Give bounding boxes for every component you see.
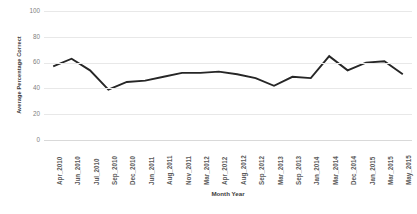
x-tick-label: Jun_2010 xyxy=(74,139,81,185)
x-tick-label: Jan_2015 xyxy=(369,139,376,185)
y-tick-label: 20 xyxy=(14,111,40,117)
x-tick-label: Apr_2012 xyxy=(221,139,228,185)
gridline xyxy=(44,37,412,38)
x-tick-label: Jan_2014 xyxy=(313,139,320,185)
x-tick-label: Nov_2011 xyxy=(185,139,192,185)
gridline xyxy=(44,63,412,64)
gridline xyxy=(44,11,412,12)
line-chart-figure: Average Percentage Correct 020406080100 … xyxy=(0,0,417,214)
y-tick-label: 100 xyxy=(14,8,40,14)
x-tick-label: Dec_2014 xyxy=(350,139,357,185)
x-axis-title: Month Year xyxy=(44,190,412,197)
y-tick-label: 60 xyxy=(14,59,40,65)
x-tick-label: Dec_2010 xyxy=(129,139,136,185)
x-axis-tick-labels: Apr_2010Jun_2010Jul_2010Sep_2010Dec_2010… xyxy=(44,141,412,187)
x-tick-label: Jul_2010 xyxy=(93,139,100,185)
y-tick-label: 40 xyxy=(14,85,40,91)
x-tick-label: Mar_2012 xyxy=(203,139,210,185)
x-tick-label: Mar_2014 xyxy=(332,139,339,185)
x-tick-label: Mar_2015 xyxy=(387,139,394,185)
x-tick-label: Aug_2012 xyxy=(240,139,247,185)
gridline xyxy=(44,88,412,89)
x-tick-label: Sep_2012 xyxy=(258,139,265,185)
x-tick-label: Sep_2013 xyxy=(295,139,302,185)
y-tick-label: 0 xyxy=(14,137,40,143)
x-tick-label: Sep_2010 xyxy=(111,139,118,185)
x-tick-label: Jun_2011 xyxy=(148,139,155,185)
plot-area xyxy=(44,11,412,140)
series-line xyxy=(44,11,412,140)
x-tick-label: May_2015 xyxy=(405,139,412,185)
x-tick-label: Aug_2011 xyxy=(166,139,173,185)
y-axis-tick-labels: 020406080100 xyxy=(12,0,40,214)
y-tick-label: 80 xyxy=(14,34,40,40)
x-tick-label: Mar_2013 xyxy=(277,139,284,185)
gridline xyxy=(44,114,412,115)
x-tick-label: Apr_2010 xyxy=(56,139,63,185)
